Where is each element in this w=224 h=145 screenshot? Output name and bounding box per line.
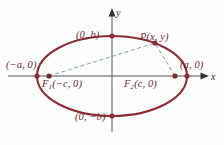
point-vertex-left (34, 73, 39, 78)
y-axis-arrowhead (109, 8, 116, 17)
point-covertex-bottom (109, 113, 114, 118)
label-vertex-right: (a, 0) (180, 60, 203, 71)
label-vertex-left: (−a, 0) (6, 60, 37, 71)
label-covertex-top: (0, b) (76, 30, 99, 41)
y-axis-label: y (116, 8, 120, 18)
label-point-p: P(x, y) (140, 32, 169, 43)
ellipse-diagram-canvas (0, 0, 224, 145)
point-focus-right (172, 73, 177, 78)
focal-radius-left-dashed-line (49, 43, 155, 76)
label-covertex-bottom: (0, −b) (75, 112, 106, 123)
point-p-coords: (x, y) (147, 31, 169, 42)
ellipse-figure: x y (−a, 0) (a, 0) (0, b) (0, −b) F1(−c,… (0, 0, 224, 145)
label-focus-right: F2(c, 0) (124, 79, 157, 91)
point-vertex-right (184, 73, 189, 78)
focus-right-coords: (c, 0) (134, 78, 157, 89)
x-axis-arrowhead (201, 73, 210, 80)
point-covertex-top (109, 33, 114, 38)
label-focus-left: F1(−c, 0) (42, 79, 82, 91)
x-axis-label: x (211, 72, 215, 82)
focus-left-coords: (−c, 0) (52, 78, 82, 89)
